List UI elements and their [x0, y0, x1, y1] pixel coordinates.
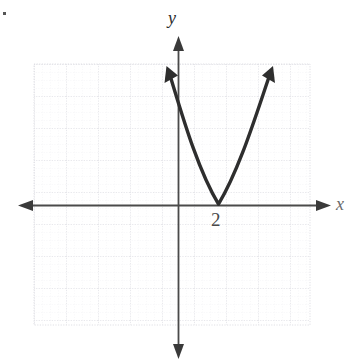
y-axis-label: y [168, 8, 176, 29]
y-axis-arrow-up [173, 36, 184, 51]
x-intercept-label: 2 [211, 209, 221, 231]
x-axis-arrow-right [316, 200, 331, 211]
y-axis-arrow-down [173, 344, 184, 359]
graph-figure: y x 2 [0, 0, 345, 360]
x-axis-arrow-left [18, 200, 33, 211]
x-axis-label: x [336, 194, 344, 215]
coordinate-plane-svg [0, 0, 345, 360]
major-gridlines [34, 64, 310, 325]
grid-layer [34, 64, 310, 325]
